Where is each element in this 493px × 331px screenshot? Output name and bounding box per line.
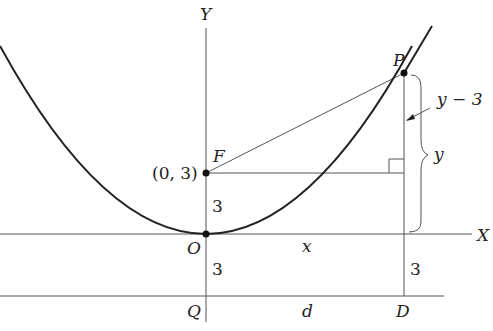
label-x-distance: x — [302, 236, 312, 256]
label-o: O — [187, 238, 201, 258]
point-p — [401, 70, 408, 77]
label-p: P — [392, 50, 405, 70]
label-y-minus-3: y − 3 — [436, 89, 482, 109]
x-axis-label: X — [475, 225, 490, 245]
arrow-head-icon — [406, 114, 415, 121]
label-focus-to-origin: 3 — [212, 196, 223, 216]
label-d: D — [395, 301, 410, 321]
label-d-segment-3: 3 — [410, 259, 421, 279]
point-o — [203, 231, 210, 238]
parabola-extension — [404, 26, 432, 73]
point-f — [203, 170, 210, 177]
segment-fp — [206, 73, 404, 173]
brace-y-minus-3 — [409, 75, 428, 232]
label-f: F — [212, 146, 226, 166]
parabola-diagram: Y X P F (0, 3) O Q D 3 3 3 x d y − 3 y — [0, 0, 493, 331]
right-angle-marker — [389, 159, 404, 173]
label-y: y — [433, 144, 444, 164]
label-q: Q — [187, 301, 201, 321]
label-d-distance: d — [302, 301, 313, 321]
label-focus-coords: (0, 3) — [152, 163, 198, 183]
label-origin-to-directrix: 3 — [212, 259, 223, 279]
y-axis-label: Y — [200, 4, 213, 24]
